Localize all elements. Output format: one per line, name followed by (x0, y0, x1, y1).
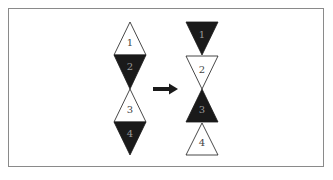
svg-text:3: 3 (199, 104, 205, 115)
after-triangle-4: 4 (186, 123, 218, 155)
before-triangle-2: 2 (114, 55, 146, 89)
svg-text:1: 1 (199, 29, 205, 40)
right-arrow-icon (153, 84, 178, 95)
after-stack: 1 2 3 4 (186, 22, 218, 155)
after-triangle-2: 2 (186, 56, 218, 89)
before-stack: 1 2 3 4 (114, 22, 146, 155)
after-triangle-3: 3 (186, 89, 218, 122)
svg-text:3: 3 (127, 104, 133, 115)
triangle-diagram: 1 2 3 4 1 2 3 (0, 0, 333, 180)
svg-text:4: 4 (199, 137, 205, 148)
svg-text:1: 1 (127, 37, 133, 48)
before-triangle-4: 4 (114, 122, 146, 155)
before-triangle-3: 3 (114, 89, 146, 122)
before-triangle-1: 1 (114, 22, 146, 55)
svg-text:2: 2 (127, 61, 133, 72)
svg-text:2: 2 (199, 64, 205, 75)
after-triangle-1: 1 (186, 22, 218, 55)
svg-text:4: 4 (127, 128, 133, 139)
